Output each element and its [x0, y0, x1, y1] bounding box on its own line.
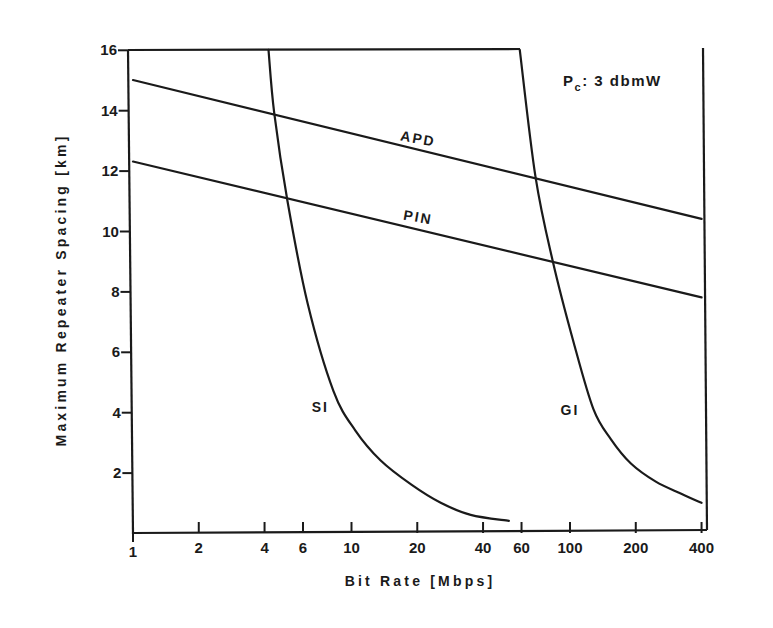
series-layer [133, 50, 702, 521]
x-tick-label: 200 [623, 539, 648, 556]
series-apd-line [133, 80, 702, 219]
axes [128, 48, 707, 534]
y-tick-label: 6 [112, 343, 120, 360]
y-tick-label: 12 [102, 162, 119, 179]
curve-label-si: SI [312, 399, 329, 415]
x-tick-label: 100 [557, 539, 582, 556]
annotation-main: P [563, 72, 575, 89]
x-tick-label: 40 [475, 539, 492, 556]
x-axis-line [133, 530, 707, 533]
series-pin-line [133, 162, 702, 298]
chart: 124610204060100200400246810121416 APDPIN… [0, 0, 773, 628]
x-tick-label: 6 [299, 539, 307, 556]
series-si-line [268, 50, 508, 521]
curve-label-pin: PIN [402, 207, 434, 228]
y-tick-label: 16 [100, 41, 117, 58]
x-tick-label: 4 [260, 539, 269, 556]
curve-labels: APDPINSIGI [312, 128, 580, 419]
x-tick-label: 400 [689, 539, 714, 556]
top-frame-line [128, 49, 520, 50]
x-tick-label: 20 [409, 539, 426, 556]
condition-annotation: Pc: 3 dbmW [563, 72, 662, 93]
y-tick-label: 2 [113, 464, 121, 481]
y-axis-title: Maximum Repeater Spacing [km] [53, 134, 69, 447]
y-tick-label: 8 [111, 283, 119, 300]
x-tick-label: 2 [195, 539, 203, 556]
x-tick-label: 1 [129, 543, 137, 560]
annotation-subscript: c [575, 81, 583, 93]
x-tick-label: 10 [343, 539, 360, 556]
curve-label-gi: GI [561, 402, 580, 418]
x-tick-label: 60 [513, 539, 530, 556]
x-axis-title: Bit Rate [Mbps] [345, 573, 496, 589]
y-tick-label: 10 [102, 223, 119, 240]
right-frame-line [703, 48, 707, 530]
annotation-rest: : 3 dbmW [582, 72, 662, 89]
y-tick-label: 4 [112, 404, 121, 421]
y-tick-label: 14 [101, 102, 118, 119]
